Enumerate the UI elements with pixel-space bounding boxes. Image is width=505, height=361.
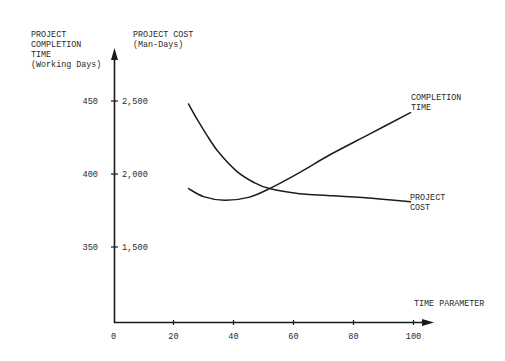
x-axis-title: TIME PARAMETER [414,299,484,309]
x-tick-label: 20 [168,332,178,342]
left-axis-title-line-4: (Working Days) [31,60,101,70]
x-axis-arrow-icon [422,319,434,326]
x-tick-label: 100 [406,332,421,342]
y-tick-label-right: 1,500 [122,243,148,253]
x-tick-label: 60 [288,332,298,342]
y-tick-label-right: 2,000 [122,170,148,180]
y-tick-label-left: 450 [83,97,98,107]
project-time-cost-chart: PROJECT COMPLETION TIME (Working Days) P… [0,0,505,361]
project-cost-label-line-1: PROJECT [410,193,445,203]
project-cost-curve [189,104,411,202]
x-tick-label: 40 [228,332,238,342]
completion-time-label: COMPLETION TIME [411,93,461,113]
project-cost-label: PROJECT COST [410,193,445,213]
left-axis-title: PROJECT COMPLETION TIME (Working Days) [31,30,101,70]
y-axis-arrow-icon [111,48,118,60]
completion-time-label-line-2: TIME [411,103,431,113]
x-tick-label: 0 [111,332,116,342]
project-cost-label-line-2: COST [410,203,430,213]
right-axis-title-line-2: (Man-Days) [133,40,183,50]
left-axis-title-line-3: TIME [31,50,51,60]
y-tick-label-left: 350 [83,243,98,253]
left-axis-title-line-2: COMPLETION [31,40,81,50]
right-axis-title: PROJECT COST (Man-Days) [133,30,193,50]
y-tick-label-left: 400 [83,170,98,180]
completion-time-label-line-1: COMPLETION [411,93,461,103]
right-axis-title-line-1: PROJECT COST [133,30,193,40]
x-tick-label: 80 [348,332,358,342]
left-axis-title-line-1: PROJECT [31,30,66,40]
y-tick-label-right: 2,500 [122,97,148,107]
